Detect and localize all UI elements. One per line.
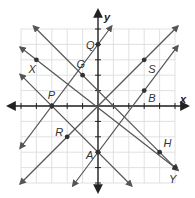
point-label-s: S: [148, 64, 155, 75]
point-g: [80, 73, 85, 78]
point-label-h: H: [164, 138, 172, 149]
point-a: [96, 150, 101, 155]
point-label-y: Y: [169, 174, 176, 185]
point-label-x: X: [28, 64, 35, 75]
point-label-a: A: [86, 150, 93, 161]
axes: [8, 10, 188, 192]
point-x: [34, 57, 39, 62]
point-r: [65, 134, 70, 139]
point-b: [142, 88, 147, 93]
point-label-b: B: [148, 93, 155, 104]
point-label-g: G: [77, 59, 86, 70]
point-label-q: Q: [86, 40, 95, 51]
point-label-r: R: [55, 127, 63, 138]
x-axis-label: x: [180, 94, 186, 105]
point-q: [96, 42, 101, 47]
point-label-p: P: [48, 90, 55, 101]
line-RS: [20, 26, 178, 184]
point-p: [49, 104, 54, 109]
point-y: [173, 165, 178, 170]
y-axis-label: y: [104, 12, 110, 23]
point-s: [142, 57, 147, 62]
point-h: [157, 150, 162, 155]
coordinate-plane: [0, 0, 195, 198]
